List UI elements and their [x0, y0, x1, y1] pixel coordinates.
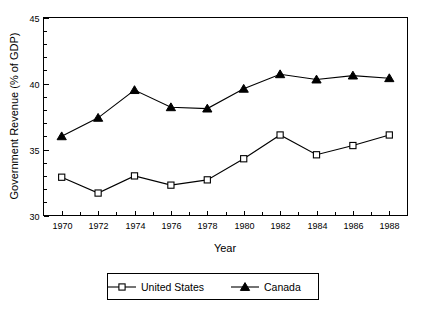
- x-tick-label: 1988: [379, 221, 399, 231]
- x-tick-label: 1974: [125, 221, 145, 231]
- marker-open-square: [168, 182, 174, 188]
- marker-open-square: [241, 156, 247, 162]
- x-tick-label: 1982: [270, 221, 290, 231]
- marker-open-square: [386, 132, 392, 138]
- series-line-canada: [62, 74, 390, 136]
- chart-figure: 30354045 1970197219741976197819801982198…: [0, 0, 424, 313]
- marker-open-square: [131, 173, 137, 179]
- legend-label: Canada: [264, 281, 301, 293]
- marker-open-square: [350, 142, 356, 148]
- marker-open-square: [95, 190, 101, 196]
- marker-filled-triangle: [93, 113, 102, 121]
- line-chart: 30354045 1970197219741976197819801982198…: [0, 0, 424, 313]
- marker-open-square: [277, 132, 283, 138]
- y-tick-label: 45: [29, 14, 39, 24]
- x-axis-ticks: [63, 211, 390, 216]
- x-tick-label: 1984: [307, 221, 327, 231]
- y-axis-tick-labels: 30354045: [29, 14, 39, 222]
- y-axis-title: Government Revenue (% of GDP): [8, 33, 20, 200]
- x-tick-label: 1970: [52, 221, 72, 231]
- series-line-united-states: [62, 135, 390, 193]
- marker-filled-triangle: [239, 84, 248, 92]
- x-tick-label: 1978: [197, 221, 217, 231]
- x-axis-title: Year: [214, 242, 237, 254]
- x-tick-label: 1986: [343, 221, 363, 231]
- x-tick-label: 1976: [161, 221, 181, 231]
- marker-open-square: [119, 284, 125, 290]
- marker-open-square: [313, 152, 319, 158]
- chart-legend: United StatesCanada: [108, 274, 319, 300]
- y-tick-label: 40: [29, 80, 39, 90]
- marker-filled-triangle: [348, 71, 357, 79]
- marker-open-square: [204, 177, 210, 183]
- y-tick-label: 35: [29, 146, 39, 156]
- marker-filled-triangle: [57, 132, 66, 140]
- marker-filled-triangle: [130, 86, 139, 94]
- series-lines: [62, 74, 390, 193]
- marker-filled-triangle: [166, 103, 175, 111]
- marker-open-square: [59, 174, 65, 180]
- marker-filled-triangle: [275, 70, 284, 78]
- series-markers: [57, 70, 394, 196]
- x-tick-label: 1980: [234, 221, 254, 231]
- legend-label: United States: [141, 281, 204, 293]
- x-axis-tick-labels: 1970197219741976197819801982198419861988: [52, 221, 399, 231]
- y-tick-label: 30: [29, 212, 39, 222]
- x-tick-label: 1972: [88, 221, 108, 231]
- y-axis-ticks: [44, 19, 49, 217]
